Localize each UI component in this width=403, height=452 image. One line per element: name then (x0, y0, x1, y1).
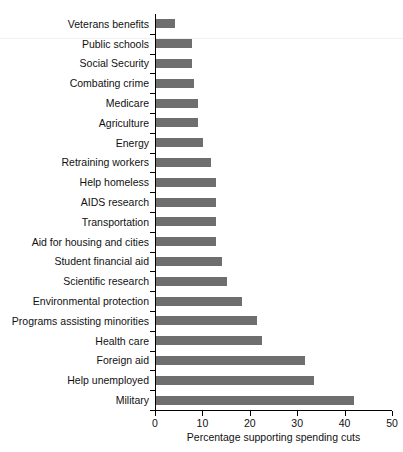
bar (156, 376, 314, 385)
bar (156, 297, 242, 306)
bar (156, 217, 216, 226)
bar (156, 316, 257, 325)
x-axis-line (155, 410, 392, 411)
category-label: Retraining workers (0, 157, 149, 168)
bar (156, 237, 216, 246)
bar (156, 79, 194, 88)
bar (156, 99, 198, 108)
category-label: Health care (0, 336, 149, 347)
bar (156, 396, 354, 405)
y-axis-tick (150, 311, 155, 312)
category-label: Help homeless (0, 177, 149, 188)
category-label: Scientific research (0, 276, 149, 287)
x-axis-tick (250, 411, 251, 416)
bar (156, 198, 216, 207)
bar (156, 118, 198, 127)
category-label: Military (0, 395, 149, 406)
category-label: Transportation (0, 217, 149, 228)
x-axis-tick (392, 411, 393, 416)
y-axis-tick (150, 410, 155, 411)
y-axis-tick (150, 370, 155, 371)
bar (156, 356, 305, 365)
x-axis-tick-label: 20 (230, 417, 270, 429)
category-label: Medicare (0, 98, 149, 109)
bar (156, 59, 192, 68)
y-axis-tick (150, 390, 155, 391)
y-axis-tick (150, 113, 155, 114)
y-axis-tick (150, 192, 155, 193)
y-axis-tick (150, 34, 155, 35)
bar (156, 138, 203, 147)
x-axis-title: Percentage supporting spending cuts (155, 431, 392, 443)
x-axis-tick (202, 411, 203, 416)
x-axis-tick-label: 40 (325, 417, 365, 429)
category-label: Energy (0, 138, 149, 149)
x-axis-tick (155, 411, 156, 416)
y-axis-tick (150, 93, 155, 94)
x-axis-tick-label: 0 (135, 417, 175, 429)
category-label: Combating crime (0, 78, 149, 89)
y-axis-tick (150, 351, 155, 352)
y-axis-tick (150, 73, 155, 74)
category-label: Programs assisting minorities (0, 316, 149, 327)
x-axis-tick (345, 411, 346, 416)
category-label: Veterans benefits (0, 19, 149, 30)
category-label: Aid for housing and cities (0, 237, 149, 248)
category-label: Help unemployed (0, 375, 149, 386)
plot-area (155, 14, 392, 410)
x-axis-tick (297, 411, 298, 416)
y-axis-tick (150, 133, 155, 134)
category-label: Public schools (0, 39, 149, 50)
y-axis-tick (150, 153, 155, 154)
bar (156, 39, 192, 48)
bar (156, 336, 262, 345)
y-axis-tick (150, 291, 155, 292)
y-axis-tick (150, 252, 155, 253)
bar (156, 277, 227, 286)
y-axis-line (155, 14, 156, 410)
y-axis-tick (150, 232, 155, 233)
category-label: Foreign aid (0, 355, 149, 366)
category-label: Environmental protection (0, 296, 149, 307)
bar-chart: 01020304050 Percentage supporting spendi… (0, 0, 403, 452)
x-axis-tick-label: 10 (182, 417, 222, 429)
bar (156, 158, 211, 167)
y-axis-tick (150, 212, 155, 213)
category-label: Agriculture (0, 118, 149, 129)
bar (156, 257, 222, 266)
category-label: AIDS research (0, 197, 149, 208)
category-label: Student financial aid (0, 256, 149, 267)
bar (156, 178, 216, 187)
y-axis-tick (150, 331, 155, 332)
y-axis-tick (150, 54, 155, 55)
bar (156, 19, 175, 28)
x-axis-tick-label: 30 (277, 417, 317, 429)
x-axis-tick-label: 50 (372, 417, 403, 429)
category-label: Social Security (0, 58, 149, 69)
y-axis-tick (150, 172, 155, 173)
y-axis-tick (150, 271, 155, 272)
